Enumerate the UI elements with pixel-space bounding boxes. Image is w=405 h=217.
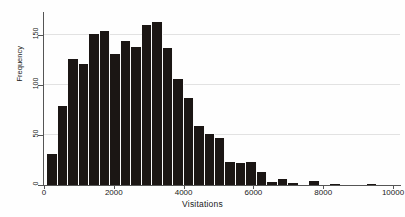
histogram-bar bbox=[89, 34, 99, 185]
y-tick-label-wrap: 150 bbox=[24, 30, 36, 40]
histogram-bar bbox=[173, 79, 183, 185]
y-axis-title: Frequency bbox=[15, 68, 24, 82]
histogram-bar bbox=[236, 163, 246, 185]
histogram-bar bbox=[131, 47, 141, 185]
histogram-bar bbox=[152, 22, 162, 185]
plot-area bbox=[44, 12, 400, 185]
histogram-bar bbox=[194, 126, 204, 185]
y-tick-label: 0 bbox=[33, 182, 40, 186]
histogram-bar bbox=[47, 154, 57, 185]
histogram-bar bbox=[257, 172, 267, 185]
histogram-bar bbox=[205, 134, 215, 185]
histogram-bar bbox=[68, 59, 78, 185]
x-tick-label: 0 bbox=[42, 188, 46, 197]
y-axis-line bbox=[43, 12, 44, 186]
histogram-bar bbox=[110, 54, 120, 185]
histogram-bar bbox=[79, 64, 89, 185]
histogram-bar bbox=[246, 162, 256, 185]
histogram-bar bbox=[225, 162, 235, 185]
y-tick-label-wrap: 0 bbox=[24, 180, 36, 190]
histogram-figure: 0501001500200040006000800010000 Frequenc… bbox=[0, 0, 405, 217]
y-tick-label: 150 bbox=[33, 28, 40, 40]
x-tick-label: 2000 bbox=[105, 188, 123, 197]
x-tick-label: 10000 bbox=[382, 188, 404, 197]
histogram-bar bbox=[215, 138, 225, 185]
x-tick-label: 8000 bbox=[314, 188, 332, 197]
histogram-bar bbox=[163, 48, 173, 185]
y-tick-label-wrap: 50 bbox=[24, 130, 36, 140]
histogram-bar bbox=[121, 41, 131, 185]
x-axis-title: Visitations bbox=[0, 199, 405, 209]
histogram-bar bbox=[58, 106, 68, 185]
histogram-bar bbox=[184, 98, 194, 185]
x-axis-line bbox=[43, 185, 401, 186]
x-tick-label: 6000 bbox=[245, 188, 263, 197]
bar-series bbox=[44, 12, 400, 185]
y-tick-label-wrap: 100 bbox=[24, 80, 36, 90]
histogram-bar bbox=[100, 31, 110, 185]
y-tick-label: 50 bbox=[33, 130, 40, 138]
histogram-bar bbox=[142, 25, 152, 185]
x-tick-label: 4000 bbox=[175, 188, 193, 197]
y-tick-label: 100 bbox=[33, 78, 40, 90]
